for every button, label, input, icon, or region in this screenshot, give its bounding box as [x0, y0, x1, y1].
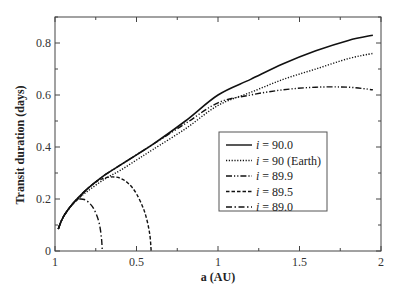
y-tick-label: 0.6: [36, 88, 51, 102]
y-tick-label: 0.2: [36, 192, 51, 206]
series-line-dashed: [58, 177, 151, 251]
legend-label: i = 89.0: [256, 200, 293, 214]
legend-label: i = 89.5: [256, 185, 293, 199]
y-tick-label: 0.4: [36, 140, 51, 154]
transit-duration-chart: 10.511.52 00.20.40.60.8 a (AU) Transit d…: [0, 0, 401, 295]
x-tick-label: 0.5: [129, 255, 144, 269]
y-axis-label: Transit duration (days): [13, 85, 27, 204]
y-tick-label: 0: [45, 244, 51, 258]
x-tick-label: 1: [52, 255, 58, 269]
x-axis-label: a (AU): [201, 270, 235, 284]
x-axis-ticks: 10.511.52: [52, 17, 384, 269]
legend-label: i = 90 (Earth): [256, 154, 321, 168]
y-axis-ticks: 00.20.40.60.8: [36, 17, 381, 258]
x-tick-label: 2: [378, 255, 384, 269]
legend-label: i = 90.0: [256, 138, 293, 152]
y-tick-label: 0.8: [36, 36, 51, 50]
x-tick-label: 1.5: [292, 255, 307, 269]
legend-label: i = 89.9: [256, 169, 293, 183]
legend: i = 90.0i = 90 (Earth)i = 89.9i = 89.5i …: [219, 132, 327, 214]
plot-frame: [55, 17, 381, 251]
series-line-dash-dot: [58, 199, 102, 251]
x-tick-label: 1: [215, 255, 221, 269]
